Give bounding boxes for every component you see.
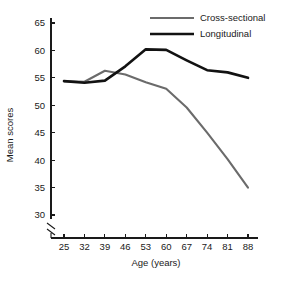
y-axis-ticks xyxy=(51,23,55,215)
x-axis-ticks xyxy=(64,234,248,238)
x-tick-label: 60 xyxy=(161,241,172,252)
chart-legend: Cross-sectionalLongitudinal xyxy=(150,12,265,39)
series-lines xyxy=(64,49,248,187)
x-tick-label: 74 xyxy=(202,241,213,252)
y-tick-label: 55 xyxy=(34,72,45,83)
y-tick-label: 60 xyxy=(34,45,45,56)
x-tick-label: 32 xyxy=(79,241,90,252)
x-tick-label: 81 xyxy=(222,241,233,252)
legend-label-longitudinal: Longitudinal xyxy=(200,28,251,39)
y-tick-label: 45 xyxy=(34,127,45,138)
x-tick-label: 25 xyxy=(59,241,70,252)
legend-label-cross-sectional: Cross-sectional xyxy=(200,12,265,23)
line-chart-svg: 3035404550556065 Mean scores 25323946536… xyxy=(0,0,282,286)
y-axis-group: 3035404550556065 Mean scores xyxy=(4,17,55,238)
x-axis-title: Age (years) xyxy=(131,257,180,268)
x-tick-label: 88 xyxy=(243,241,254,252)
x-tick-label: 46 xyxy=(120,241,131,252)
series-line-cross-sectional xyxy=(64,71,248,188)
y-tick-label: 40 xyxy=(34,155,45,166)
y-axis-tick-labels: 3035404550556065 xyxy=(34,17,45,220)
y-axis-title: Mean scores xyxy=(4,108,15,163)
chart-container: 3035404550556065 Mean scores 25323946536… xyxy=(0,0,282,286)
y-tick-label: 50 xyxy=(34,100,45,111)
x-axis-tick-labels: 25323946536067748188 xyxy=(59,241,254,252)
x-tick-label: 53 xyxy=(140,241,151,252)
y-tick-label: 35 xyxy=(34,182,45,193)
axis-break-icon xyxy=(47,223,55,238)
y-tick-label: 30 xyxy=(34,209,45,220)
x-tick-label: 67 xyxy=(181,241,192,252)
x-tick-label: 39 xyxy=(100,241,111,252)
y-tick-label: 65 xyxy=(34,17,45,28)
x-axis-group: 25323946536067748188 Age (years) xyxy=(51,234,258,268)
